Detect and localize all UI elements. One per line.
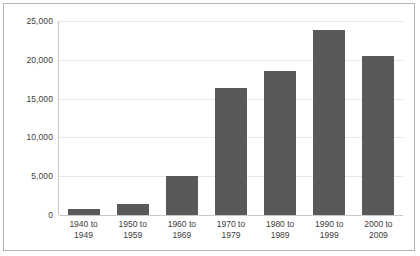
y-axis-tick-label: 15,000 [26, 94, 53, 104]
x-axis-tick-label: 2000 to2009 [364, 219, 392, 241]
plot-area: 05,00010,00015,00020,00025,000 1940 to19… [58, 21, 403, 215]
x-axis-tick-label: 1980 to1989 [266, 219, 294, 241]
bar-group: 1980 to1989 [256, 21, 305, 215]
chart-container: 05,00010,00015,00020,00025,000 1940 to19… [3, 3, 415, 251]
y-axis-tick-label: 20,000 [26, 55, 53, 65]
bar-group: 1970 to1979 [206, 21, 255, 215]
y-axis-tick-label: 0 [48, 210, 53, 220]
bar-series: 1940 to19491950 to19591960 to19691970 to… [59, 21, 403, 215]
x-axis-tick-label: 1950 to1959 [119, 219, 147, 241]
y-axis-tick-label: 5,000 [31, 171, 53, 181]
bar-group: 1950 to1959 [108, 21, 157, 215]
bar-1940-to-1949[interactable] [68, 209, 100, 215]
x-axis-tick-label: 1970 to1979 [217, 219, 245, 241]
bar-group: 1960 to1969 [157, 21, 206, 215]
bar-1970-to-1979[interactable] [215, 88, 247, 215]
x-axis-tick-label: 1940 to1949 [69, 219, 97, 241]
y-axis-tick-label: 25,000 [26, 16, 53, 26]
x-axis-tick-label: 1960 to1969 [168, 219, 196, 241]
bar-group: 1940 to1949 [59, 21, 108, 215]
bar-1950-to-1959[interactable] [117, 204, 149, 215]
bar-1960-to-1969[interactable] [166, 176, 198, 215]
bar-group: 1990 to1999 [305, 21, 354, 215]
y-axis-tick-label: 10,000 [26, 132, 53, 142]
bar-1990-to-1999[interactable] [313, 30, 345, 215]
bar-group: 2000 to2009 [354, 21, 403, 215]
x-axis-tick-label: 1990 to1999 [315, 219, 343, 241]
gridline-0 [59, 215, 403, 216]
bar-2000-to-2009[interactable] [362, 56, 394, 215]
bar-1980-to-1989[interactable] [264, 71, 296, 215]
